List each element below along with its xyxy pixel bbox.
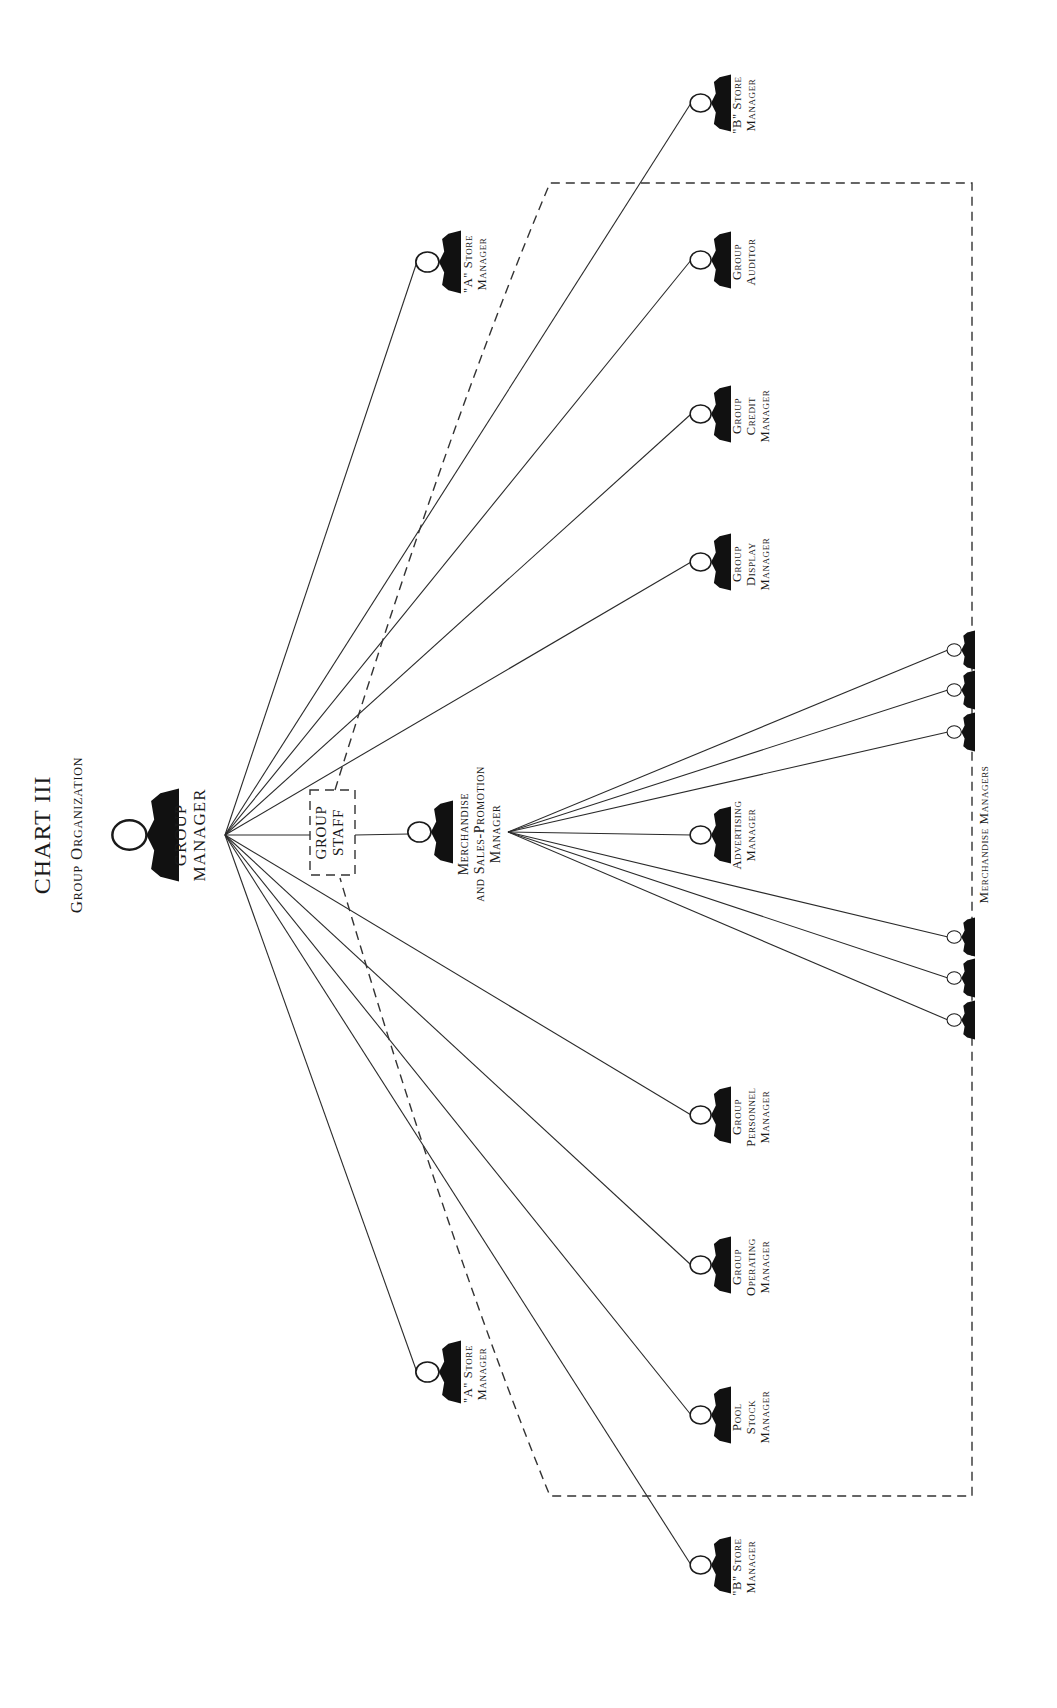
connector-group-credit-manager: [225, 414, 691, 835]
person-head-icon: [690, 1556, 711, 1574]
person-body-icon: [711, 75, 731, 132]
connector-merchandise-manager-1: [508, 650, 948, 832]
label-line: Group: [730, 244, 744, 280]
person-head-icon: [690, 405, 711, 423]
label-line: Manager: [488, 805, 503, 863]
group-credit-manager-figure: [690, 386, 731, 443]
b-store-bottom-label: "B" StoreManager: [730, 1538, 758, 1595]
group-auditor-label: GroupAuditor: [730, 238, 758, 285]
person-body-icon: [961, 918, 975, 957]
connector-group-personnel-manager: [225, 835, 691, 1115]
person-body-icon: [711, 1237, 731, 1294]
group-display-manager-figure: [690, 534, 731, 591]
label-line: Manager: [758, 390, 772, 443]
label-line: Merchandise: [456, 793, 471, 875]
label-line: Advertising: [730, 800, 744, 869]
group-staff-dashed-boundary: [335, 183, 972, 1496]
person-body-icon: [711, 1537, 731, 1594]
person-body-icon: [961, 713, 975, 752]
label-line: GROUP: [171, 804, 190, 867]
person-head-icon: [416, 252, 439, 272]
b-store-bottom-figure: [690, 1537, 731, 1594]
group-personnel-manager-label: GroupPersonnelManager: [730, 1087, 773, 1146]
person-body-icon: [961, 1001, 975, 1040]
person-head-icon: [690, 826, 711, 844]
advertising-manager-figure: [690, 807, 731, 864]
person-head-icon: [690, 1106, 711, 1124]
label-line: Manager: [744, 809, 758, 862]
label-line: Auditor: [744, 238, 758, 285]
person-head-icon: [112, 820, 146, 849]
label-line: Manager: [758, 1091, 772, 1144]
person-head-icon: [416, 1362, 439, 1382]
label-line: Operating: [744, 1238, 758, 1296]
person-body-icon: [711, 534, 731, 591]
msp-manager-label: Merchandiseand Sales-PromotionManager: [456, 766, 503, 902]
merchandise-manager-5-figure: [947, 959, 975, 998]
org-chart-canvas: GROUPSTAFFGROUPMANAGERMerchandiseand Sal…: [0, 0, 1057, 1708]
label-line: Pool: [730, 1403, 744, 1431]
person-body-icon: [711, 1387, 731, 1444]
label-line: Manager: [758, 1241, 772, 1294]
connector-b-store-top: [225, 103, 691, 835]
person-body-icon: [431, 801, 453, 864]
person-body-icon: [961, 631, 975, 670]
group-operating-manager-label: GroupOperatingManager: [730, 1238, 773, 1296]
msp-manager-figure: [408, 801, 453, 864]
group-personnel-manager-figure: [690, 1087, 731, 1144]
group-credit-manager-label: GroupCreditManager: [730, 390, 773, 443]
label-line: "A" Store: [461, 1345, 475, 1403]
connector-group-auditor: [225, 260, 691, 835]
person-head-icon: [947, 931, 961, 943]
person-head-icon: [690, 251, 711, 269]
label-line: Group: [730, 546, 744, 582]
label-line: "B" Store: [730, 1538, 744, 1595]
merchandise-manager-2-figure: [947, 671, 975, 710]
label-line: "A" Store: [461, 235, 475, 293]
label-line: MANAGER: [190, 789, 209, 882]
connector-pool-stock-manager: [225, 835, 691, 1415]
person-head-icon: [690, 553, 711, 571]
chart-subtitle: Group Organization: [67, 757, 86, 914]
person-body-icon: [711, 232, 731, 289]
group-operating-manager-figure: [690, 1237, 731, 1294]
group-auditor-figure: [690, 232, 731, 289]
person-head-icon: [947, 644, 961, 656]
label-line: Display: [744, 542, 758, 586]
person-body-icon: [439, 231, 461, 294]
person-head-icon: [947, 1014, 961, 1026]
person-head-icon: [947, 684, 961, 696]
label-line: Group: [730, 1099, 744, 1135]
merchandise-managers-label: Merchandise Managers: [976, 766, 991, 904]
group-manager-figure: [112, 789, 179, 882]
person-body-icon: [439, 1341, 461, 1404]
pool-stock-manager-figure: [690, 1387, 731, 1444]
person-head-icon: [947, 972, 961, 984]
label-line: Manager: [758, 1391, 772, 1444]
merchandise-manager-4-figure: [947, 918, 975, 957]
label-line: GROUP: [313, 806, 329, 860]
a-store-bottom-figure: [416, 1341, 461, 1404]
label-line: Credit: [744, 397, 758, 435]
merchandise-manager-1-figure: [947, 631, 975, 670]
label-line: Manager: [758, 538, 772, 591]
pool-stock-manager-label: PoolStockManager: [730, 1391, 773, 1444]
person-body-icon: [961, 959, 975, 998]
advertising-manager-label: AdvertisingManager: [730, 800, 758, 869]
label-line: Manager: [744, 79, 758, 132]
label-line: Group: [730, 398, 744, 434]
label-line: Personnel: [744, 1087, 758, 1146]
person-head-icon: [690, 94, 711, 112]
merchandise-manager-6-figure: [947, 1001, 975, 1040]
staff-boundary: [335, 183, 972, 1496]
a-store-bottom-label: "A" StoreManager: [461, 1345, 489, 1403]
chart-title: CHART III: [29, 776, 55, 894]
label-line: "B" Store: [730, 76, 744, 133]
connector-advertising: [508, 832, 692, 835]
group-display-manager-label: GroupDisplayManager: [730, 538, 773, 591]
a-store-top-label: "A" StoreManager: [461, 235, 489, 293]
person-body-icon: [711, 386, 731, 443]
person-head-icon: [408, 822, 431, 842]
b-store-top-label: "B" StoreManager: [730, 76, 758, 133]
chart-heading: CHART III Group Organization: [29, 757, 86, 914]
